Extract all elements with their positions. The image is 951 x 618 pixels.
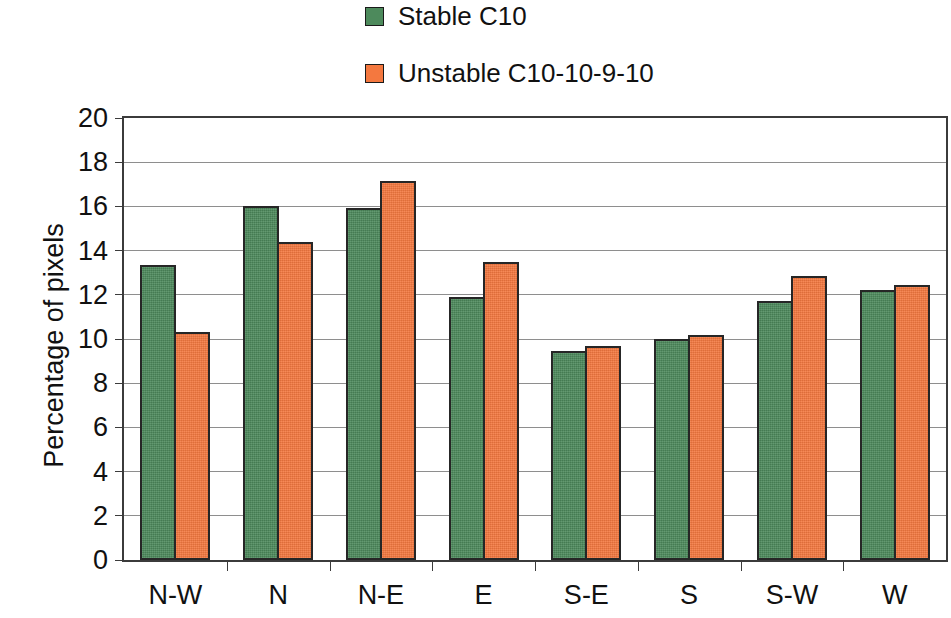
bar-group bbox=[535, 118, 638, 560]
bar-e-unstable bbox=[483, 262, 519, 560]
legend-swatch-unstable-icon bbox=[365, 64, 384, 83]
y-axis-tick-label: 12 bbox=[78, 279, 108, 310]
x-axis-tick bbox=[843, 560, 844, 571]
bar-group bbox=[638, 118, 741, 560]
x-axis-tick bbox=[535, 560, 536, 571]
x-axis-tick-label: E bbox=[475, 580, 493, 611]
legend-swatch-stable-icon bbox=[365, 7, 384, 26]
y-axis-tick-label: 6 bbox=[93, 412, 108, 443]
x-axis-tick-label: N-W bbox=[148, 580, 202, 611]
x-axis-tick-label: N-E bbox=[358, 580, 405, 611]
legend-label-unstable: Unstable C10-10-9-10 bbox=[398, 60, 654, 86]
y-axis-tick-label: 18 bbox=[78, 147, 108, 178]
y-axis-tick-label: 0 bbox=[93, 545, 108, 576]
y-axis-tick bbox=[115, 162, 124, 163]
bar-group bbox=[432, 118, 535, 560]
y-axis-tick-label: 8 bbox=[93, 368, 108, 399]
y-axis-tick-label: 10 bbox=[78, 324, 108, 355]
bar-n-w-unstable bbox=[174, 332, 210, 560]
y-axis-tick bbox=[115, 383, 124, 384]
bar-s-e-stable bbox=[551, 351, 587, 560]
bar-group bbox=[227, 118, 330, 560]
bar-n-w-stable bbox=[140, 265, 176, 560]
legend-entry-unstable: Unstable C10-10-9-10 bbox=[365, 60, 654, 86]
bar-group bbox=[843, 118, 946, 560]
bar-n-e-unstable bbox=[380, 181, 416, 560]
x-axis-tick bbox=[638, 560, 639, 571]
bar-w-stable bbox=[860, 290, 896, 560]
y-axis-tick-label: 4 bbox=[93, 456, 108, 487]
y-axis-tick bbox=[115, 294, 124, 295]
x-axis-tick bbox=[432, 560, 433, 571]
x-axis-tick-label: W bbox=[882, 580, 907, 611]
y-axis-tick bbox=[115, 118, 124, 119]
bar-group bbox=[330, 118, 433, 560]
bar-e-stable bbox=[449, 297, 485, 560]
y-axis-tick-label: 14 bbox=[78, 235, 108, 266]
x-axis-tick-label: S-W bbox=[766, 580, 818, 611]
x-axis-tick bbox=[227, 560, 228, 571]
y-axis-tick-label: 2 bbox=[93, 500, 108, 531]
x-axis-tick-label: N bbox=[268, 580, 288, 611]
bar-s-w-stable bbox=[757, 301, 793, 560]
bar-n-unstable bbox=[277, 242, 313, 560]
bar-n-stable bbox=[243, 206, 279, 560]
bar-n-e-stable bbox=[346, 208, 382, 560]
y-axis-title: Percentage of pixels bbox=[39, 196, 70, 496]
legend-entry-stable: Stable C10 bbox=[365, 3, 527, 29]
x-axis-tick-label: S-E bbox=[564, 580, 609, 611]
y-axis-tick-label: 16 bbox=[78, 191, 108, 222]
y-axis-tick bbox=[115, 471, 124, 472]
bar-w-unstable bbox=[894, 285, 930, 560]
y-axis-tick-label: 20 bbox=[78, 103, 108, 134]
bar-s-e-unstable bbox=[585, 346, 621, 560]
chart-legend: Stable C10 Unstable C10-10-9-10 bbox=[0, 0, 951, 100]
x-axis-tick bbox=[741, 560, 742, 571]
y-axis-tick bbox=[115, 515, 124, 516]
y-axis-tick bbox=[115, 560, 124, 561]
x-axis-tick bbox=[330, 560, 331, 571]
bar-s-w-unstable bbox=[791, 276, 827, 560]
y-axis-tick bbox=[115, 427, 124, 428]
bar-group bbox=[741, 118, 844, 560]
bar-s-unstable bbox=[688, 335, 724, 560]
plot-area: 20181614121086420N-WNN-EES-ESS-WW bbox=[122, 116, 948, 562]
bar-s-stable bbox=[654, 339, 690, 560]
y-axis-tick bbox=[115, 250, 124, 251]
bar-group bbox=[124, 118, 227, 560]
y-axis-tick bbox=[115, 206, 124, 207]
y-axis-tick bbox=[115, 339, 124, 340]
bar-chart-figure: Stable C10 Unstable C10-10-9-10 Percenta… bbox=[0, 0, 951, 618]
legend-label-stable: Stable C10 bbox=[398, 3, 527, 29]
x-axis-tick-label: S bbox=[680, 580, 698, 611]
